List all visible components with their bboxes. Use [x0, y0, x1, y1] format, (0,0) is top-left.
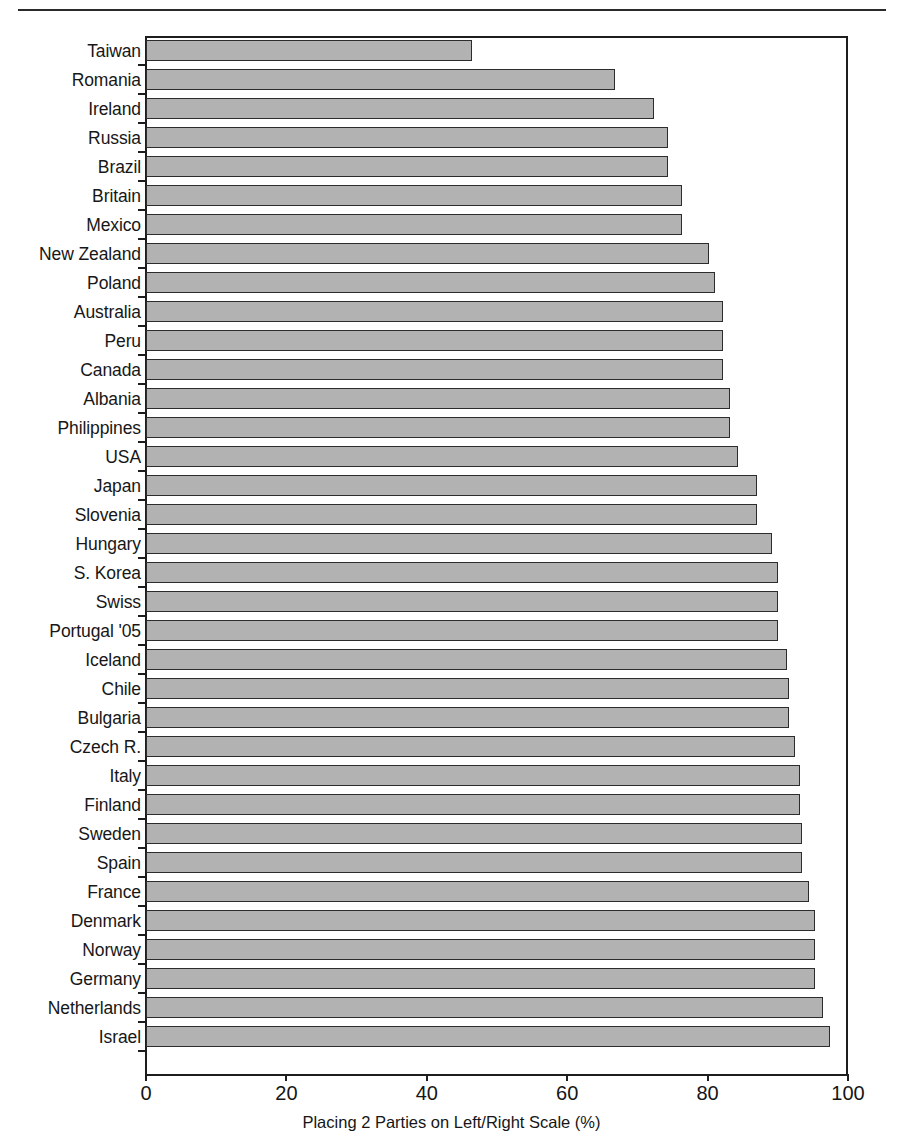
bar-row: France [0, 878, 903, 907]
bar-category-label: Israel [0, 1028, 141, 1047]
bar-row: Philippines [0, 414, 903, 443]
bar [146, 446, 738, 467]
header-rule [18, 9, 886, 11]
x-axis-tick [426, 1074, 428, 1081]
bar-category-label: Canada [0, 361, 141, 380]
bar [146, 127, 668, 148]
bar-category-label: Netherlands [0, 999, 141, 1018]
bar-row: Finland [0, 791, 903, 820]
bar-row: Ireland [0, 95, 903, 124]
bar-row: Poland [0, 269, 903, 298]
bar [146, 678, 789, 699]
bar-category-label: Bulgaria [0, 709, 141, 728]
bar-row: Czech R. [0, 733, 903, 762]
bar [146, 214, 682, 235]
bar-row: Sweden [0, 820, 903, 849]
bar-row: Peru [0, 327, 903, 356]
x-axis-tick-label: 0 [106, 1082, 186, 1105]
bar [146, 881, 809, 902]
bars-layer: TaiwanRomaniaIrelandRussiaBrazilBritainM… [0, 34, 903, 1079]
bar [146, 823, 802, 844]
bar-category-label: Norway [0, 941, 141, 960]
bar-row: Iceland [0, 646, 903, 675]
bar-category-label: Peru [0, 332, 141, 351]
x-axis-tick-label: 40 [387, 1082, 467, 1105]
bar [146, 620, 778, 641]
bar [146, 910, 815, 931]
bar-row: Denmark [0, 907, 903, 936]
bar-category-label: France [0, 883, 141, 902]
bar-category-label: Poland [0, 274, 141, 293]
bar-category-label: Portugal '05 [0, 622, 141, 641]
bar-row: Bulgaria [0, 704, 903, 733]
bar [146, 533, 772, 554]
bar-category-label: Romania [0, 71, 141, 90]
bar-category-label: Ireland [0, 100, 141, 119]
bar [146, 359, 723, 380]
bar [146, 1026, 830, 1047]
x-axis-tick-label: 80 [668, 1082, 748, 1105]
bar-category-label: Spain [0, 854, 141, 873]
bar-chart: TaiwanRomaniaIrelandRussiaBrazilBritainM… [0, 34, 903, 1079]
bar [146, 475, 757, 496]
bar-category-label: Taiwan [0, 42, 141, 61]
bar-row: Russia [0, 124, 903, 153]
bar-row: Portugal '05 [0, 617, 903, 646]
bar [146, 185, 682, 206]
bar-category-label: Chile [0, 680, 141, 699]
bar [146, 765, 800, 786]
bar [146, 98, 654, 119]
bar [146, 997, 823, 1018]
bar-category-label: Britain [0, 187, 141, 206]
bar-row: Romania [0, 66, 903, 95]
y-axis-tick [138, 1050, 146, 1052]
bar-row: Swiss [0, 588, 903, 617]
bar-row: Japan [0, 472, 903, 501]
x-axis-tick-label: 20 [246, 1082, 326, 1105]
bar [146, 968, 815, 989]
bar-category-label: USA [0, 448, 141, 467]
bar-category-label: Germany [0, 970, 141, 989]
bar-category-label: Czech R. [0, 738, 141, 757]
bar-category-label: Albania [0, 390, 141, 409]
x-axis-title: Placing 2 Parties on Left/Right Scale (%… [0, 1113, 903, 1132]
bar [146, 69, 615, 90]
bar-row: Canada [0, 356, 903, 385]
bar-category-label: Slovenia [0, 506, 141, 525]
bar [146, 417, 730, 438]
bar-row: Spain [0, 849, 903, 878]
bar-category-label: Australia [0, 303, 141, 322]
bar [146, 156, 668, 177]
bar-category-label: Brazil [0, 158, 141, 177]
bar-category-label: Japan [0, 477, 141, 496]
bar-row: Slovenia [0, 501, 903, 530]
bar-row: New Zealand [0, 240, 903, 269]
bar [146, 591, 778, 612]
bar-row: Israel [0, 1023, 903, 1052]
x-axis-tick [566, 1074, 568, 1081]
bar [146, 330, 723, 351]
bar [146, 388, 730, 409]
bar-row: Brazil [0, 153, 903, 182]
bar-row: Chile [0, 675, 903, 704]
bar-category-label: Hungary [0, 535, 141, 554]
bar-category-label: Mexico [0, 216, 141, 235]
bar [146, 736, 795, 757]
x-axis-tick [145, 1074, 147, 1081]
bar-row: Netherlands [0, 994, 903, 1023]
bar-row: Norway [0, 936, 903, 965]
x-axis-tick [847, 1074, 849, 1081]
bar-row: USA [0, 443, 903, 472]
bar-category-label: Sweden [0, 825, 141, 844]
bar [146, 243, 709, 264]
bar [146, 794, 800, 815]
bar-row: Hungary [0, 530, 903, 559]
x-axis-tick-label: 60 [527, 1082, 607, 1105]
bar [146, 939, 815, 960]
bar-category-label: Russia [0, 129, 141, 148]
x-axis-tick [707, 1074, 709, 1081]
bar [146, 504, 757, 525]
bar-category-label: Finland [0, 796, 141, 815]
bar [146, 40, 472, 61]
chart-page: TaiwanRomaniaIrelandRussiaBrazilBritainM… [0, 0, 903, 1148]
